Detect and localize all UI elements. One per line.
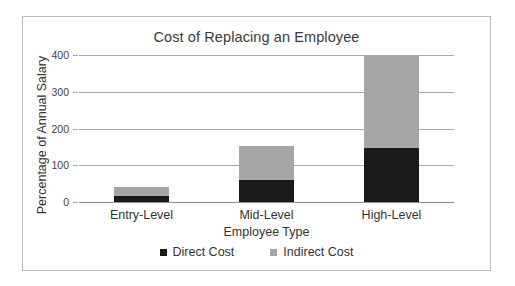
y-tick-mark-300 bbox=[73, 92, 78, 93]
bar-segment-direct-cost[interactable] bbox=[114, 196, 169, 202]
bar-segment-indirect-cost[interactable] bbox=[364, 55, 419, 148]
legend-item-direct-cost[interactable]: Direct Cost bbox=[160, 245, 235, 259]
y-tick-label-400: 400 bbox=[51, 49, 69, 61]
y-axis-title: Percentage of Annual Salary bbox=[34, 55, 50, 215]
bar-segment-indirect-cost[interactable] bbox=[114, 187, 169, 196]
legend-item-indirect-cost[interactable]: Indirect Cost bbox=[270, 245, 353, 259]
y-tick-mark-200 bbox=[73, 129, 78, 130]
bar-segment-direct-cost[interactable] bbox=[364, 148, 419, 202]
plot-area: 0100200300400Entry-LevelMid-LevelHigh-Le… bbox=[79, 55, 454, 202]
x-axis-title: Employee Type bbox=[79, 225, 454, 239]
legend-swatch-icon bbox=[160, 249, 167, 256]
y-tick-label-300: 300 bbox=[51, 86, 69, 98]
bar-segment-indirect-cost[interactable] bbox=[239, 146, 294, 180]
legend-swatch-icon bbox=[270, 249, 277, 256]
x-tick-label-entry-level: Entry-Level bbox=[110, 208, 173, 222]
bar-group-entry-level[interactable]: Entry-Level bbox=[114, 187, 169, 202]
axis-baseline bbox=[79, 202, 454, 203]
chart-container: Cost of Replacing an Employee Percentage… bbox=[22, 16, 491, 271]
y-axis-title-label: Percentage of Annual Salary bbox=[35, 56, 49, 214]
bar-segment-direct-cost[interactable] bbox=[239, 180, 294, 202]
y-tick-label-200: 200 bbox=[51, 123, 69, 135]
y-tick-mark-100 bbox=[73, 165, 78, 166]
bar-group-high-level[interactable]: High-Level bbox=[364, 55, 419, 202]
x-tick-label-high-level: High-Level bbox=[362, 208, 422, 222]
x-tick-label-mid-level: Mid-Level bbox=[239, 208, 293, 222]
legend-label: Indirect Cost bbox=[283, 245, 353, 259]
y-tick-label-0: 0 bbox=[63, 196, 69, 208]
y-tick-mark-0 bbox=[73, 202, 78, 203]
legend-label: Direct Cost bbox=[173, 245, 235, 259]
bar-group-mid-level[interactable]: Mid-Level bbox=[239, 146, 294, 202]
chart-title: Cost of Replacing an Employee bbox=[23, 29, 490, 45]
y-tick-mark-400 bbox=[73, 55, 78, 56]
y-tick-label-100: 100 bbox=[51, 159, 69, 171]
chart-legend: Direct CostIndirect Cost bbox=[23, 245, 490, 259]
